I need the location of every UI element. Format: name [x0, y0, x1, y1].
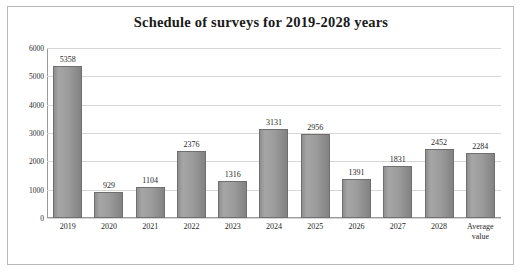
- bar-slot: [130, 48, 171, 218]
- bar-slot: [88, 48, 129, 218]
- bar[interactable]: [259, 129, 288, 218]
- x-axis-tick-label: 2022: [169, 222, 213, 232]
- bar-value-label: 2284: [460, 142, 501, 151]
- chart-container: Schedule of surveys for 2019-2028 years …: [0, 0, 522, 272]
- x-axis-tick-label: 2020: [87, 222, 131, 232]
- bar-value-label: 3131: [253, 118, 294, 127]
- x-axis-tick-label: 2026: [335, 222, 379, 232]
- y-axis-tick-label: 6000: [10, 44, 44, 53]
- bar[interactable]: [342, 179, 371, 218]
- bar-value-label: 2376: [171, 140, 212, 149]
- bar-slot: [460, 48, 501, 218]
- bar-value-label: 1104: [130, 176, 171, 185]
- x-axis-tick-label: 2028: [417, 222, 461, 232]
- y-axis-tick-label: 0: [10, 214, 44, 223]
- bar-slot: [212, 48, 253, 218]
- bar-value-label: 1831: [377, 155, 418, 164]
- bar-value-label: 1391: [336, 168, 377, 177]
- plot-area: 5358929110423761316313129561391183124522…: [47, 48, 501, 218]
- bar[interactable]: [466, 153, 495, 218]
- bar-slot: [418, 48, 459, 218]
- gridline: [47, 218, 501, 219]
- bar[interactable]: [425, 149, 454, 218]
- x-axis-tick-label: 2019: [46, 222, 90, 232]
- x-axis-tick-label: 2021: [128, 222, 172, 232]
- y-axis-tick-labels: 0100020003000400050006000: [8, 48, 44, 218]
- bar-slot: [377, 48, 418, 218]
- x-axis-tick-label: 2027: [376, 222, 420, 232]
- bar-slot: [171, 48, 212, 218]
- bar-value-label: 1316: [212, 170, 253, 179]
- bar[interactable]: [53, 66, 82, 218]
- bar-value-label: 2452: [418, 138, 459, 147]
- bar-slot: [47, 48, 88, 218]
- y-axis-tick-label: 3000: [10, 129, 44, 138]
- bar-slot: [336, 48, 377, 218]
- bar-slot: [295, 48, 336, 218]
- bar-slot: [253, 48, 294, 218]
- bar[interactable]: [383, 166, 412, 218]
- x-axis-tick-label: 2023: [211, 222, 255, 232]
- chart-title: Schedule of surveys for 2019-2028 years: [0, 14, 522, 31]
- bar[interactable]: [218, 181, 247, 218]
- bar-value-label: 929: [88, 181, 129, 190]
- x-axis-tick-label: Averagevalue: [458, 222, 502, 241]
- bar[interactable]: [136, 187, 165, 218]
- bar-value-label: 2956: [295, 123, 336, 132]
- x-axis-tick-label: 2024: [252, 222, 296, 232]
- y-axis-tick-label: 5000: [10, 72, 44, 81]
- y-axis-tick-label: 4000: [10, 100, 44, 109]
- x-axis-tick-label: 2025: [293, 222, 337, 232]
- bar[interactable]: [177, 151, 206, 218]
- y-axis-tick-label: 2000: [10, 157, 44, 166]
- y-axis-tick-label: 1000: [10, 185, 44, 194]
- bar[interactable]: [301, 134, 330, 218]
- bar[interactable]: [94, 192, 123, 218]
- bar-value-label: 5358: [47, 55, 88, 64]
